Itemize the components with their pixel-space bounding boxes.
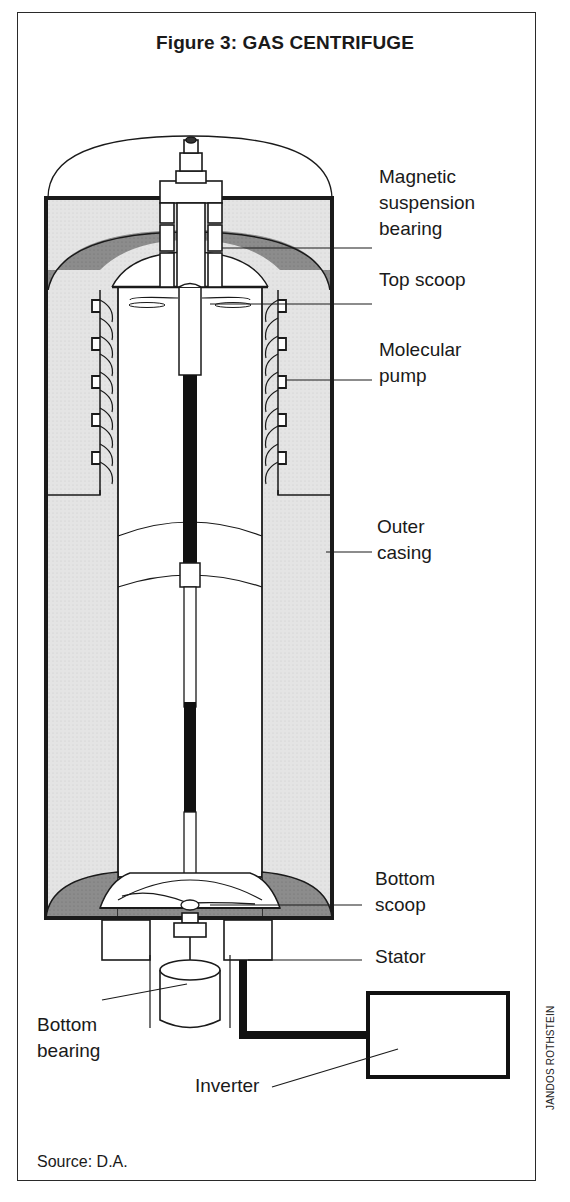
label-inverter: Inverter xyxy=(195,1073,259,1099)
illustrator-credit: JANDOS ROTHSTEIN xyxy=(545,1006,556,1110)
label-outer-casing: Outer casing xyxy=(377,514,432,566)
center-shaft-dark-upper xyxy=(183,375,197,567)
label-molecular-pump: Molecular pump xyxy=(379,337,461,389)
center-shaft-joint xyxy=(180,563,200,587)
label-bottom-scoop: Bottom scoop xyxy=(375,866,435,918)
inverter-box xyxy=(368,993,508,1077)
power-cable xyxy=(243,960,368,1035)
label-stator: Stator xyxy=(375,944,426,970)
source-note: Source: D.A. xyxy=(37,1153,128,1171)
label-bottom-bearing: Bottom bearing xyxy=(37,1012,100,1064)
label-top-scoop: Top scoop xyxy=(379,267,466,293)
center-shaft-top xyxy=(179,287,201,375)
center-shaft-dark-lower xyxy=(184,702,196,812)
label-magnetic-bearing: Magnetic suspension bearing xyxy=(379,164,475,242)
bottom-bearing xyxy=(150,913,230,1028)
magnetic-bearing xyxy=(160,137,222,287)
